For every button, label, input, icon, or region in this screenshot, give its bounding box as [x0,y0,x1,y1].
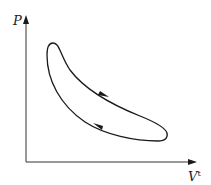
pv-diagram-canvas [0,0,211,185]
cycle-loop [47,43,167,141]
pv-diagram: P Vt [0,0,211,185]
x-axis [26,159,197,165]
y-axis-arrow-icon [23,15,29,24]
x-axis-arrow-icon [188,159,197,165]
y-axis [23,15,29,162]
y-axis-label: P [13,14,22,27]
y-axis-label-text: P [13,13,22,28]
x-axis-label-superscript: t [197,169,200,178]
x-axis-label-text: V [188,169,197,184]
x-axis-label: Vt [188,170,201,183]
